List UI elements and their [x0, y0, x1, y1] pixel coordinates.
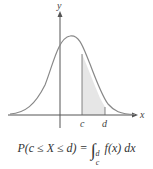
c-tick-label: c: [80, 118, 85, 129]
formula-integrand: f(x) dx: [105, 141, 136, 155]
probability-formula: P(c ≤ X ≤ d) = ∫dc f(x) dx: [0, 140, 153, 167]
upper-limit: d: [96, 149, 100, 158]
y-axis-label: y: [56, 0, 62, 11]
d-tick-label: d: [102, 118, 108, 129]
integral-limits: dc: [96, 149, 100, 167]
shaded-probability-region: [82, 54, 105, 115]
x-axis-label: x: [139, 109, 145, 120]
lower-limit: c: [96, 158, 100, 167]
formula-lhs: P(c ≤ X ≤ d) =: [17, 141, 87, 155]
y-axis-arrow-icon: [58, 11, 63, 17]
density-curve: [10, 36, 135, 115]
